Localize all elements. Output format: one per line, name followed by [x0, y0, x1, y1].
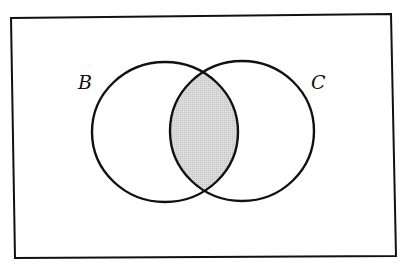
- set-b-label: B: [77, 71, 92, 93]
- venn-diagram: B C: [0, 0, 407, 263]
- set-c-label: C: [311, 71, 326, 93]
